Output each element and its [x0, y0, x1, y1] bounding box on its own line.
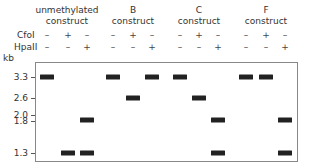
- dna-band: [192, 96, 206, 101]
- cfoi-sign: –: [111, 30, 116, 40]
- axis-marker-label: 2.6: [2, 93, 28, 103]
- dna-band: [278, 118, 292, 123]
- group-title-line2: construct: [178, 16, 220, 26]
- axis-unit-label: kb: [3, 53, 29, 63]
- cfoi-sign: +: [195, 30, 203, 40]
- axis-marker-label: 3.3: [2, 72, 28, 82]
- group-title-line2: construct: [46, 16, 88, 26]
- dna-band: [173, 75, 187, 80]
- cfoi-sign: –: [150, 30, 155, 40]
- cfoi-sign: +: [64, 30, 72, 40]
- axis-marker-label: 1.3: [2, 148, 28, 158]
- hpaii-sign: –: [244, 42, 249, 52]
- hpaii-sign: +: [214, 42, 222, 52]
- dna-band: [211, 118, 225, 123]
- cfoi-sign: +: [262, 30, 270, 40]
- dna-band: [239, 75, 253, 80]
- hpaii-sign: –: [197, 42, 202, 52]
- dna-band: [61, 151, 75, 156]
- hpaii-sign: –: [111, 42, 116, 52]
- cfoi-sign: –: [45, 30, 50, 40]
- group-title-line2: construct: [112, 16, 154, 26]
- group-title-line1: B: [130, 5, 136, 15]
- hpaii-sign: –: [45, 42, 50, 52]
- hpaii-sign: +: [281, 42, 289, 52]
- cfoi-sign: –: [244, 30, 249, 40]
- dna-band: [211, 151, 225, 156]
- cfoi-sign: –: [283, 30, 288, 40]
- cfoi-sign: –: [85, 30, 90, 40]
- group-title-line1: C: [196, 5, 202, 15]
- cfoi-sign: +: [129, 30, 137, 40]
- cfoi-sign: –: [216, 30, 221, 40]
- axis-marker-label: 1.8: [2, 116, 28, 126]
- hpaii-row-label: HpaII: [14, 42, 37, 52]
- cfoi-sign: –: [178, 30, 183, 40]
- hpaii-sign: –: [178, 42, 183, 52]
- group-title-line1: unmethylated: [35, 5, 98, 15]
- dna-band: [80, 151, 94, 156]
- dna-band: [145, 75, 159, 80]
- dna-band: [259, 75, 273, 80]
- hpaii-sign: –: [66, 42, 71, 52]
- hpaii-sign: –: [131, 42, 136, 52]
- dna-band: [106, 75, 120, 80]
- dna-band: [126, 96, 140, 101]
- dna-band: [80, 118, 94, 123]
- hpaii-sign: +: [148, 42, 156, 52]
- cfoi-row-label: CfoI: [17, 30, 35, 40]
- group-title-line2: construct: [245, 16, 287, 26]
- group-title-line1: F: [263, 5, 268, 15]
- dna-band: [278, 151, 292, 156]
- hpaii-sign: –: [264, 42, 269, 52]
- hpaii-sign: +: [83, 42, 91, 52]
- dna-band: [40, 75, 54, 80]
